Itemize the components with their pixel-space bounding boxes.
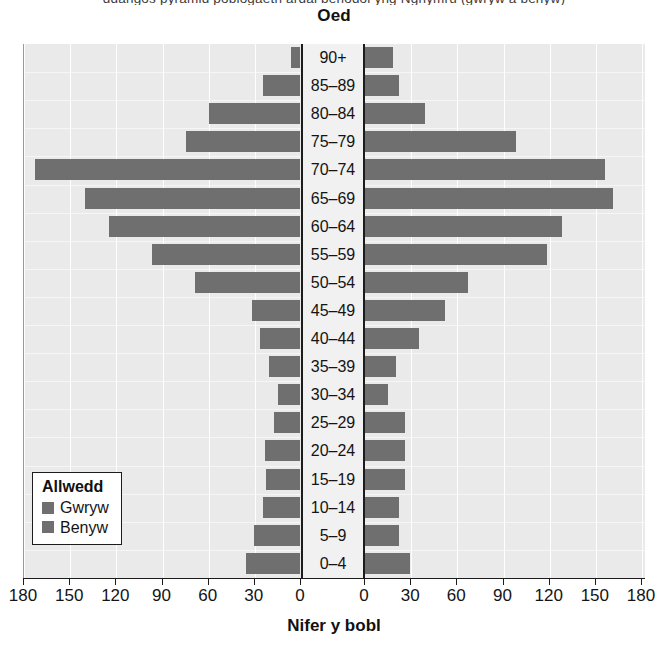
bar-gwryw xyxy=(263,75,300,96)
bar-benyw xyxy=(365,103,425,124)
axis-tick xyxy=(641,578,642,585)
axis-tick xyxy=(69,578,70,585)
axis-tick xyxy=(410,578,411,585)
bar-gwryw xyxy=(263,497,300,518)
axis-tick xyxy=(503,578,504,585)
bar-gwryw xyxy=(291,47,300,68)
bar-gwryw xyxy=(209,103,300,124)
axis-tick xyxy=(162,578,163,585)
x-tick-label-right: 60 xyxy=(431,586,481,606)
age-band-label: 80–84 xyxy=(301,100,365,128)
x-tick-label-right: 90 xyxy=(478,586,528,606)
age-band-label: 65–69 xyxy=(301,185,365,213)
age-band-label: 0–4 xyxy=(301,550,365,578)
axis-tick xyxy=(549,578,550,585)
age-band-label: 50–54 xyxy=(301,269,365,297)
x-tick-label-left: 150 xyxy=(44,586,94,606)
bar-gwryw xyxy=(252,300,300,321)
legend-item-benyw: Benyw xyxy=(42,518,109,538)
clipped-caption-text: ddangos pyramid poblogaeth ardal benodol… xyxy=(0,0,668,5)
legend: Allwedd Gwryw Benyw xyxy=(32,472,122,545)
x-tick-label-left: 120 xyxy=(90,586,140,606)
age-band-label: 55–59 xyxy=(301,241,365,269)
x-tick-label-left: 90 xyxy=(137,586,187,606)
bar-gwryw xyxy=(265,440,300,461)
bar-benyw xyxy=(365,553,410,574)
bar-benyw xyxy=(365,300,445,321)
bar-benyw xyxy=(365,75,399,96)
age-band-label: 20–24 xyxy=(301,437,365,465)
legend-swatch-gwryw xyxy=(42,502,54,514)
bar-gwryw xyxy=(109,216,300,237)
bar-benyw xyxy=(365,272,468,293)
legend-label-benyw: Benyw xyxy=(60,518,108,538)
age-band-label: 40–44 xyxy=(301,325,365,353)
x-tick-label-right: 30 xyxy=(385,586,435,606)
axis-tick xyxy=(456,578,457,585)
age-band-label: 45–49 xyxy=(301,297,365,325)
axis-tick xyxy=(208,578,209,585)
x-tick-label-right: 0 xyxy=(339,586,389,606)
x-tick-label-right: 180 xyxy=(616,586,666,606)
bar-gwryw xyxy=(35,159,300,180)
age-band-label: 35–39 xyxy=(301,353,365,381)
bar-benyw xyxy=(365,440,405,461)
age-band-label: 90+ xyxy=(301,44,365,72)
bar-benyw xyxy=(365,497,399,518)
legend-title: Allwedd xyxy=(42,478,109,496)
age-band-label: 60–64 xyxy=(301,213,365,241)
chart-title: Oed xyxy=(0,6,668,26)
age-band-label: 30–34 xyxy=(301,381,365,409)
x-tick-label-left: 30 xyxy=(229,586,279,606)
bar-gwryw xyxy=(186,131,300,152)
axis-tick xyxy=(254,578,255,585)
axis-tick xyxy=(595,578,596,585)
bar-gwryw xyxy=(195,272,300,293)
bar-benyw xyxy=(365,384,388,405)
bar-gwryw xyxy=(246,553,300,574)
legend-label-gwryw: Gwryw xyxy=(60,498,109,518)
bar-gwryw xyxy=(266,469,300,490)
bar-benyw xyxy=(365,525,399,546)
bar-benyw xyxy=(365,159,605,180)
bar-gwryw xyxy=(278,384,300,405)
axis-tick xyxy=(115,578,116,585)
bar-benyw xyxy=(365,244,547,265)
axis-tick xyxy=(23,578,24,585)
bar-benyw xyxy=(365,412,405,433)
legend-swatch-benyw xyxy=(42,521,54,533)
bar-benyw xyxy=(365,469,405,490)
bar-gwryw xyxy=(260,328,300,349)
x-axis-title: Nifer y bobl xyxy=(0,616,668,636)
legend-item-gwryw: Gwryw xyxy=(42,498,109,518)
bar-gwryw xyxy=(274,412,300,433)
x-tick-label-left: 60 xyxy=(183,586,233,606)
bar-benyw xyxy=(365,328,419,349)
bar-benyw xyxy=(365,188,613,209)
bar-gwryw xyxy=(269,356,300,377)
bar-benyw xyxy=(365,216,562,237)
bar-gwryw xyxy=(85,188,300,209)
age-band-label: 70–74 xyxy=(301,156,365,184)
x-tick-label-left: 0 xyxy=(275,586,325,606)
age-band-label: 85–89 xyxy=(301,72,365,100)
age-band-label: 25–29 xyxy=(301,409,365,437)
x-tick-label-right: 120 xyxy=(524,586,574,606)
population-pyramid-chart: ddangos pyramid poblogaeth ardal benodol… xyxy=(0,0,668,659)
bar-benyw xyxy=(365,356,396,377)
x-tick-label-right: 150 xyxy=(570,586,620,606)
axis-tick xyxy=(364,578,365,585)
axis-tick xyxy=(300,578,301,585)
x-tick-label-left: 180 xyxy=(0,586,48,606)
age-band-label: 5–9 xyxy=(301,522,365,550)
bar-gwryw xyxy=(254,525,300,546)
bar-gwryw xyxy=(152,244,300,265)
bar-benyw xyxy=(365,47,393,68)
age-band-label: 15–19 xyxy=(301,466,365,494)
age-band-label: 10–14 xyxy=(301,494,365,522)
age-band-label: 75–79 xyxy=(301,128,365,156)
bar-benyw xyxy=(365,131,516,152)
